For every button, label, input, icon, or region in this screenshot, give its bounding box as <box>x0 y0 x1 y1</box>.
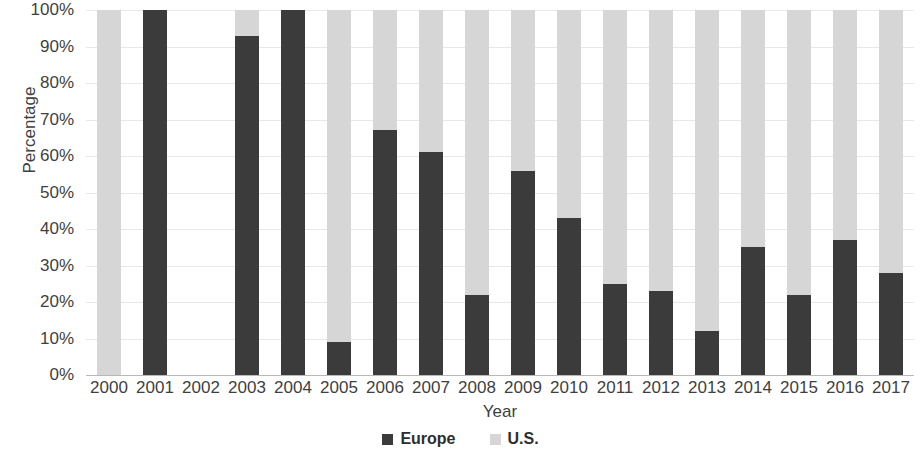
x-axis-tick-label: 2000 <box>86 378 132 398</box>
bar-segment-europe[interactable] <box>281 10 305 375</box>
x-axis-tick-label: 2014 <box>730 378 776 398</box>
x-axis-title: Year <box>86 402 914 422</box>
bar-slot <box>592 10 638 375</box>
bar-segment-us[interactable] <box>833 10 857 240</box>
bar-segment-europe[interactable] <box>695 331 719 375</box>
legend-swatch-icon <box>490 434 501 445</box>
bar-segment-europe[interactable] <box>143 10 167 375</box>
x-axis-tick-label: 2002 <box>178 378 224 398</box>
bar-segment-europe[interactable] <box>649 291 673 375</box>
bar-segment-europe[interactable] <box>373 130 397 375</box>
y-axis-tick-label: 70% <box>40 110 74 130</box>
x-axis-tick-label: 2005 <box>316 378 362 398</box>
x-axis-tick-label: 2010 <box>546 378 592 398</box>
bar-segment-europe[interactable] <box>557 218 581 375</box>
bar-stack[interactable] <box>557 10 581 375</box>
bar-segment-europe[interactable] <box>465 295 489 375</box>
bar-segment-us[interactable] <box>419 10 443 152</box>
bar-slot <box>132 10 178 375</box>
legend-label: U.S. <box>508 430 539 448</box>
bar-slot <box>684 10 730 375</box>
x-axis-tick-label: 2012 <box>638 378 684 398</box>
y-axis-tick-label: 0% <box>49 365 74 385</box>
legend-item[interactable]: Europe <box>382 430 455 448</box>
bar-segment-us[interactable] <box>327 10 351 342</box>
bar-segment-europe[interactable] <box>419 152 443 375</box>
bar-stack[interactable] <box>373 10 397 375</box>
plot-area <box>86 10 914 375</box>
bar-segment-us[interactable] <box>373 10 397 130</box>
bar-segment-europe[interactable] <box>879 273 903 375</box>
bar-segment-europe[interactable] <box>741 247 765 375</box>
bar-slot <box>454 10 500 375</box>
x-axis-tick-label: 2011 <box>592 378 638 398</box>
bar-segment-us[interactable] <box>879 10 903 273</box>
stacked-bar-chart: Percentage 100%90%80%70%60%50%40%30%20%1… <box>0 0 921 457</box>
bar-slot <box>730 10 776 375</box>
bar-stack[interactable] <box>741 10 765 375</box>
x-axis-line <box>86 375 914 376</box>
bar-segment-us[interactable] <box>695 10 719 331</box>
bar-slot <box>86 10 132 375</box>
bar-stack[interactable] <box>695 10 719 375</box>
x-axis-tick-label: 2001 <box>132 378 178 398</box>
bar-stack[interactable] <box>833 10 857 375</box>
y-axis-tick-label: 100% <box>31 0 74 20</box>
bar-stack[interactable] <box>419 10 443 375</box>
x-axis-tick-label: 2016 <box>822 378 868 398</box>
x-axis-tick-label: 2004 <box>270 378 316 398</box>
bar-stack[interactable] <box>465 10 489 375</box>
y-axis-tick-label: 90% <box>40 37 74 57</box>
bar-segment-europe[interactable] <box>327 342 351 375</box>
bar-slot <box>546 10 592 375</box>
x-axis-tick-labels: 2000200120022003200420052006200720082009… <box>86 378 914 402</box>
bar-slot <box>362 10 408 375</box>
y-axis-tick-label: 50% <box>40 183 74 203</box>
bar-segment-us[interactable] <box>465 10 489 295</box>
x-axis-tick-label: 2006 <box>362 378 408 398</box>
bar-segment-europe[interactable] <box>511 171 535 375</box>
y-axis-tick-label: 80% <box>40 73 74 93</box>
bar-stack[interactable] <box>327 10 351 375</box>
bar-segment-us[interactable] <box>603 10 627 284</box>
bar-segment-europe[interactable] <box>603 284 627 375</box>
y-axis-tick-label: 10% <box>40 329 74 349</box>
y-axis-tick-label: 20% <box>40 292 74 312</box>
legend-label: Europe <box>400 430 455 448</box>
bar-segment-us[interactable] <box>649 10 673 291</box>
bar-slot <box>270 10 316 375</box>
bar-segment-us[interactable] <box>511 10 535 171</box>
bar-stack[interactable] <box>879 10 903 375</box>
bar-slot <box>638 10 684 375</box>
x-axis-tick-label: 2008 <box>454 378 500 398</box>
x-axis-tick-label: 2009 <box>500 378 546 398</box>
bar-segment-us[interactable] <box>787 10 811 295</box>
bar-stack[interactable] <box>511 10 535 375</box>
y-axis-tick-label: 30% <box>40 256 74 276</box>
bar-slot <box>868 10 914 375</box>
bar-stack[interactable] <box>603 10 627 375</box>
bar-slot <box>776 10 822 375</box>
y-axis-tick-label: 40% <box>40 219 74 239</box>
bar-slot <box>316 10 362 375</box>
y-axis-tick-labels: 100%90%80%70%60%50%40%30%20%10%0% <box>0 0 80 385</box>
bar-segment-europe[interactable] <box>833 240 857 375</box>
bar-stack[interactable] <box>97 10 121 375</box>
x-axis-tick-label: 2003 <box>224 378 270 398</box>
bar-segment-us[interactable] <box>741 10 765 247</box>
bar-segment-us[interactable] <box>235 10 259 36</box>
bar-stack[interactable] <box>281 10 305 375</box>
bar-segment-us[interactable] <box>97 10 121 375</box>
bar-segment-europe[interactable] <box>787 295 811 375</box>
y-axis-tick-label: 60% <box>40 146 74 166</box>
bar-stack[interactable] <box>649 10 673 375</box>
chart-legend: EuropeU.S. <box>0 430 921 448</box>
bar-segment-europe[interactable] <box>235 36 259 375</box>
bar-stack[interactable] <box>235 10 259 375</box>
bar-stack[interactable] <box>787 10 811 375</box>
bar-segment-us[interactable] <box>557 10 581 218</box>
bar-slot <box>178 10 224 375</box>
bar-slot <box>822 10 868 375</box>
bar-stack[interactable] <box>143 10 167 375</box>
legend-item[interactable]: U.S. <box>490 430 539 448</box>
